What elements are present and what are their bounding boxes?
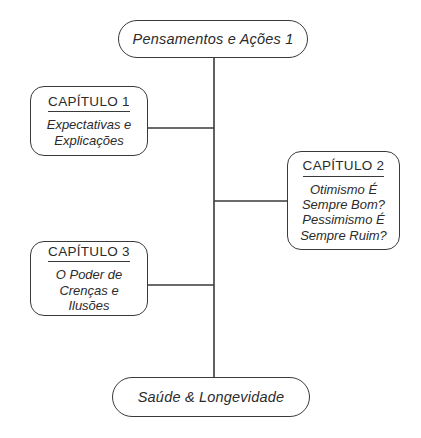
node-bottom[interactable]: Saúde & Longevidade [112, 377, 310, 417]
node-chapter-2-body: Otimismo É Sempre Bom? Pessimismo É Semp… [300, 182, 387, 243]
node-chapter-2-line: Otimismo É [300, 182, 387, 197]
flowchart-canvas: Pensamentos e Ações 1 CAPÍTULO 1 Expecta… [0, 0, 421, 438]
node-chapter-2-line: Pessimismo É [300, 212, 387, 227]
node-chapter-2-line: Sempre Bom? [300, 197, 387, 212]
node-chapter-3-heading: CAPÍTULO 3 [48, 244, 130, 263]
node-chapter-3-line: Crenças e [56, 283, 123, 298]
node-chapter-2[interactable]: CAPÍTULO 2 Otimismo É Sempre Bom? Pessim… [287, 151, 400, 250]
node-chapter-3-line: O Poder de [56, 267, 123, 282]
node-chapter-3-line: Ilusões [56, 298, 123, 313]
node-chapter-1[interactable]: CAPÍTULO 1 Expectativas e Explicações [30, 86, 148, 156]
node-chapter-1-body: Expectativas e Explicações [47, 117, 132, 148]
node-chapter-3-body: O Poder de Crenças e Ilusões [56, 267, 123, 313]
node-bottom-label: Saúde & Longevidade [138, 389, 285, 405]
node-top[interactable]: Pensamentos e Ações 1 [118, 20, 308, 58]
node-chapter-1-heading: CAPÍTULO 1 [48, 94, 130, 113]
node-chapter-2-line: Sempre Ruim? [300, 228, 387, 243]
node-chapter-2-heading: CAPÍTULO 2 [303, 158, 385, 177]
node-chapter-3[interactable]: CAPÍTULO 3 O Poder de Crenças e Ilusões [30, 241, 148, 316]
node-chapter-1-line: Explicações [47, 133, 132, 148]
node-chapter-1-line: Expectativas e [47, 117, 132, 132]
node-top-label: Pensamentos e Ações 1 [133, 31, 294, 47]
